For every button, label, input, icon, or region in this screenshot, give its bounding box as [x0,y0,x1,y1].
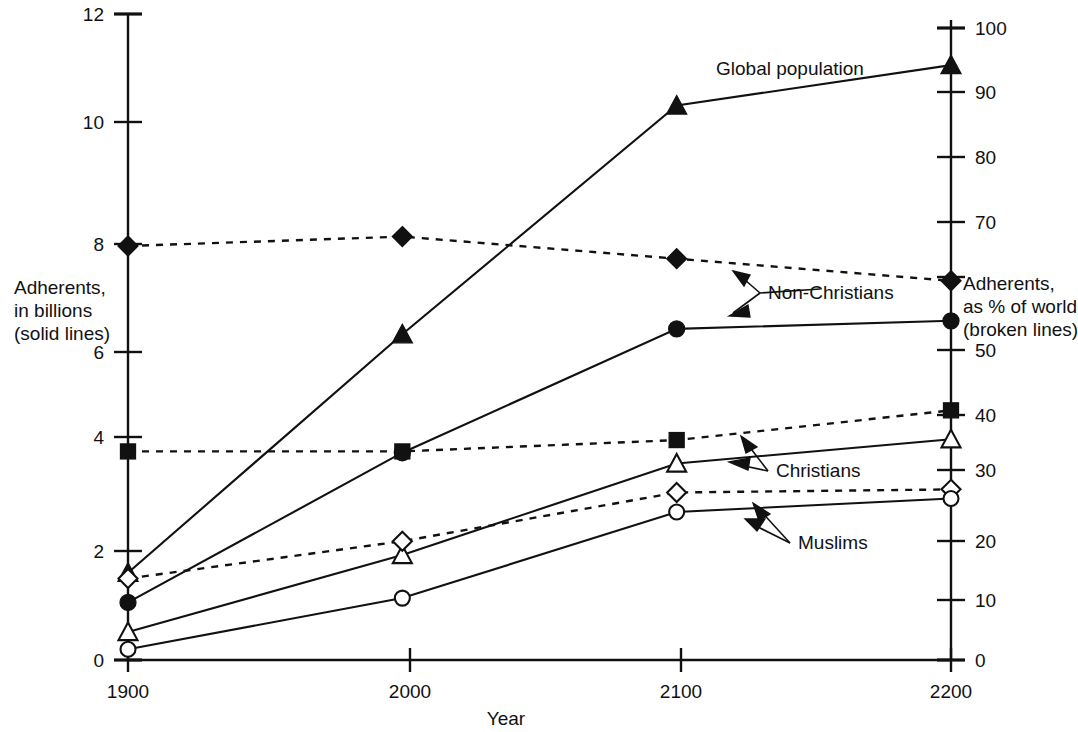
data-point-marker-open-circle [669,504,684,519]
x-ticklabel: 2000 [389,681,431,702]
series-line [128,499,951,650]
x-ticklabel: 2200 [930,681,972,702]
y-ticklabel-right: 40 [975,405,996,426]
y-ticklabel-left: 10 [83,112,104,133]
data-point-marker-filled-square [395,444,410,459]
series-line [128,410,951,451]
annotation-label-global-population: Global population [716,58,864,79]
x-ticklabel: 2100 [660,681,702,702]
data-point-marker-filled-diamond [118,236,138,256]
annotation-label-christians: Christians [776,460,860,481]
data-point-marker-filled-diamond [941,271,961,291]
data-point-marker-open-circle [395,591,410,606]
annotation-non-christians: Non-Christians [729,271,894,317]
data-point-marker-open-diamond [393,532,412,551]
annotation-christians: Christians [729,436,860,481]
series-line [128,237,951,281]
annotation-label-non-christians: Non-Christians [768,282,894,303]
axis-bottom: 1900200021002200 [107,648,972,702]
data-point-marker-open-circle [121,642,136,657]
right-title-line2: as % of world [963,296,1077,317]
annotation-label-muslims: Muslims [798,532,868,553]
data-point-marker-filled-diamond [667,249,687,269]
y-ticklabel-right: 100 [975,18,1007,39]
data-point-marker-filled-triangle [941,55,961,74]
y-ticklabel-left: 8 [93,234,104,255]
y-ticklabel-right: 90 [975,82,996,103]
y-ticklabel-left: 6 [93,342,104,363]
y-ticklabel-right: 30 [975,460,996,481]
right-title-line1: Adherents, [963,273,1055,294]
y-axis-left-title: Adherents, in billions (solid lines) [14,277,110,344]
y-ticklabel-right: 20 [975,531,996,552]
y-ticklabel-right: 70 [975,212,996,233]
data-point-marker-filled-diamond [392,227,412,247]
data-point-marker-open-triangle [119,623,138,641]
y-ticklabel-left: 2 [93,541,104,562]
annotation-muslims: Muslims [745,503,868,553]
data-point-marker-open-diamond [667,483,686,502]
y-ticklabel-left: 12 [83,4,104,25]
y-axis-right-title: Adherents, as % of world (broken lines) [963,273,1078,340]
chart-canvas: 121086420 10090807050403020100 190020002… [0,0,1078,732]
x-ticklabel: 1900 [107,681,149,702]
population-religion-projection-chart: 121086420 10090807050403020100 190020002… [0,0,1078,732]
left-title-line2: in billions [14,300,92,321]
data-point-marker-open-circle [944,491,959,506]
data-point-marker-filled-circle [669,321,685,337]
right-title-line3: (broken lines) [963,319,1078,340]
series-muslims-billions [121,491,959,657]
y-ticklabel-right: 0 [975,650,986,671]
y-ticklabel-left: 0 [93,650,104,671]
data-point-marker-filled-square [121,444,136,459]
axis-right: 10090807050403020100 [937,18,1007,671]
left-title-line1: Adherents, [14,277,106,298]
data-series-group [118,55,961,657]
left-title-line3: (solid lines) [14,323,110,344]
data-point-marker-filled-circle [120,594,136,610]
x-axis-title: Year [487,708,526,729]
y-ticklabel-right: 50 [975,340,996,361]
data-point-marker-filled-circle [943,313,959,329]
y-ticklabel-left: 4 [93,427,104,448]
y-ticklabel-right: 10 [975,590,996,611]
data-point-marker-filled-square [944,403,959,418]
data-point-marker-filled-square [669,433,684,448]
y-ticklabel-right: 80 [975,147,996,168]
annotation-global-population: Global population [716,58,864,79]
series-global-population [118,55,961,581]
data-point-marker-open-diamond [119,569,138,588]
series-line [128,65,951,573]
data-point-marker-open-triangle [942,430,961,448]
